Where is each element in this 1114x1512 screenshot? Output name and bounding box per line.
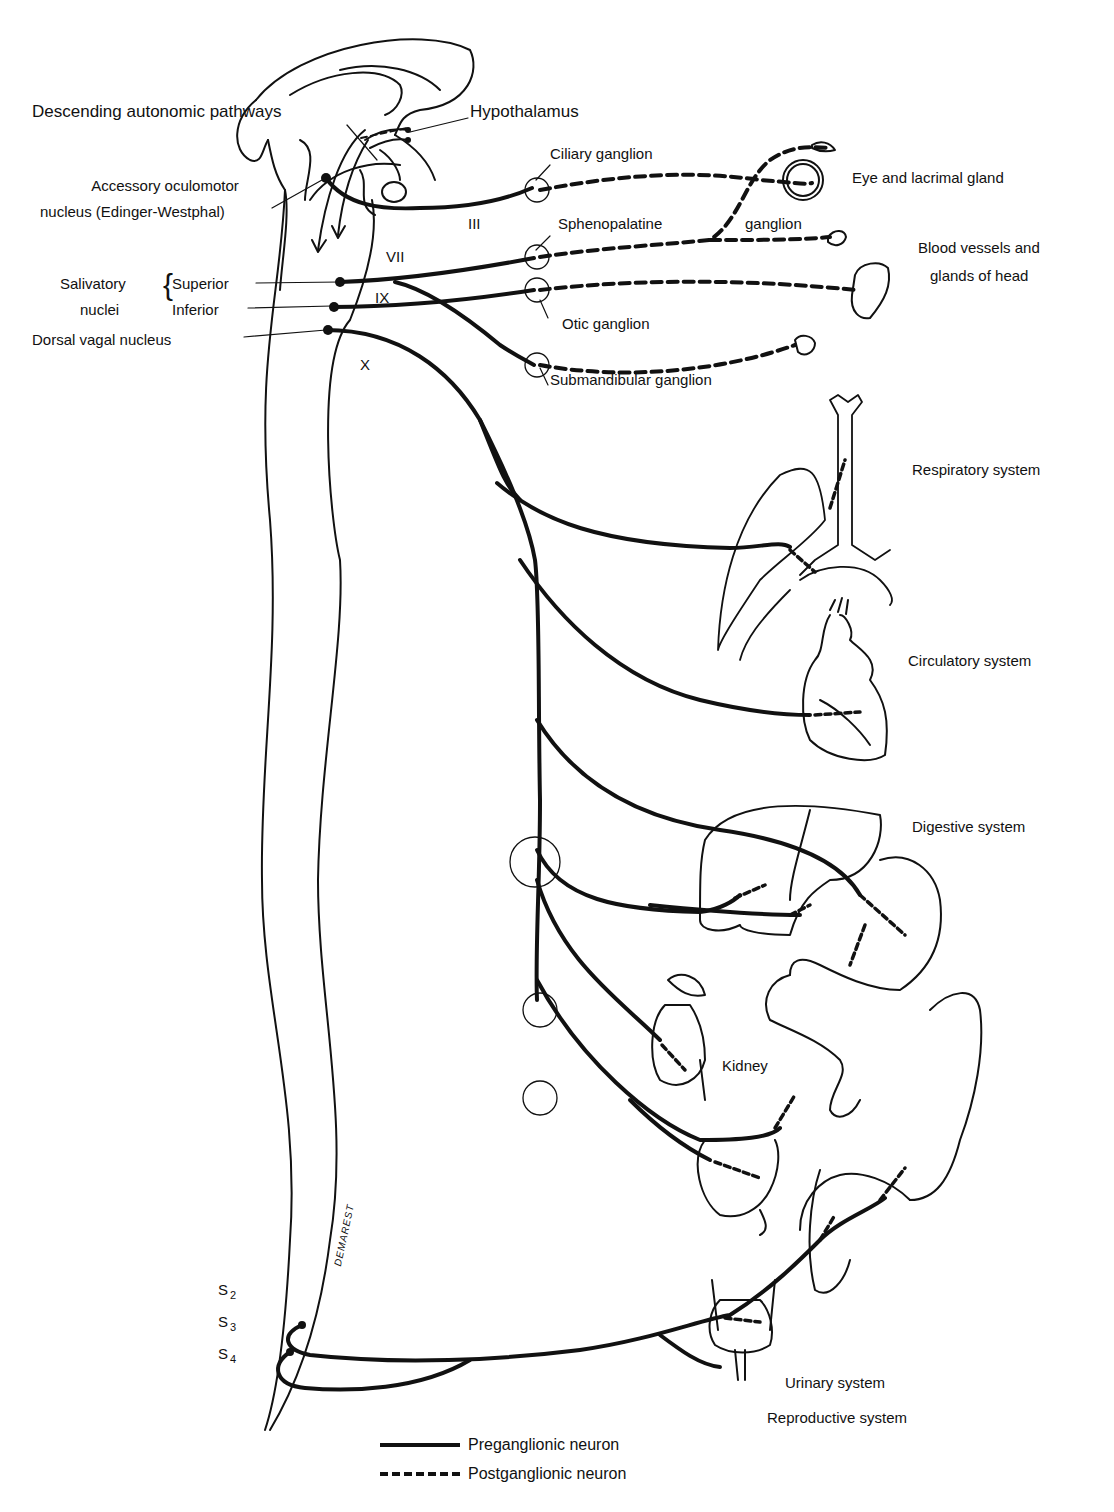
nerve-X-label: X <box>360 356 370 373</box>
sphenopalatine-ganglion-label: ganglion <box>745 216 802 231</box>
blood-vessels-label-1: Blood vessels and <box>918 240 1040 255</box>
s4-label: S4 <box>218 1346 236 1361</box>
diagram-canvas <box>0 0 1114 1512</box>
s3-label: S3 <box>218 1314 236 1329</box>
vagal-branches <box>480 420 860 1160</box>
legend-postganglionic-label: Postganglionic neuron <box>468 1465 626 1483</box>
urinary-postganglionic <box>725 1318 760 1322</box>
accessory-oculomotor-label-2: nucleus (Edinger-Westphal) <box>40 204 225 219</box>
dashed-line-swatch <box>380 1472 460 1476</box>
cranial-ganglia <box>525 178 549 377</box>
sacral-preganglionic <box>278 1198 885 1390</box>
circulatory-label: Circulatory system <box>908 653 1031 668</box>
descending-pathway-arrows <box>312 128 408 252</box>
descending-pathways-label: Descending autonomic pathways <box>32 103 281 120</box>
respiratory-label: Respiratory system <box>912 462 1040 477</box>
kidney-label: Kidney <box>722 1058 768 1073</box>
superior-nucleus-label: Superior <box>172 276 229 291</box>
otic-ganglion-label: Otic ganglion <box>562 316 650 331</box>
kidney-postganglionic <box>662 1045 685 1070</box>
inferior-nucleus-label: Inferior <box>172 302 219 317</box>
nerve-IX-label: IX <box>375 289 389 306</box>
digestive-organ <box>700 806 981 1230</box>
legend-preganglionic-label: Preganglionic neuron <box>468 1436 619 1454</box>
nerve-VII-label: VII <box>386 248 404 265</box>
reproductive-label: Reproductive system <box>767 1410 907 1425</box>
ciliary-ganglion-label: Ciliary ganglion <box>550 146 653 161</box>
circulatory-organ <box>803 598 887 760</box>
solid-line-swatch <box>380 1443 460 1447</box>
sphenopalatine-label: Sphenopalatine <box>558 216 662 231</box>
salivatory-label-1: Salivatory <box>60 276 126 291</box>
nerve-III-label: III <box>468 215 481 232</box>
legend-postganglionic: Postganglionic neuron <box>380 1465 626 1483</box>
respiratory-postganglionic <box>790 460 845 572</box>
nucleus-dots <box>286 127 411 1356</box>
dorsal-vagal-label: Dorsal vagal nucleus <box>32 332 171 347</box>
respiratory-organ <box>718 395 892 660</box>
eye-label: Eye and lacrimal gland <box>852 170 1004 185</box>
hypothalamus-label: Hypothalamus <box>470 103 579 120</box>
blood-vessels-label-2: glands of head <box>930 268 1028 283</box>
submandibular-ganglion-label: Submandibular ganglion <box>550 372 712 387</box>
spinal-cord <box>262 190 374 1430</box>
s2-label: S2 <box>218 1282 236 1297</box>
accessory-oculomotor-label-1: Accessory oculomotor <box>55 178 275 193</box>
preganglionic-cranial <box>326 178 534 500</box>
urinary-label: Urinary system <box>785 1375 885 1390</box>
postganglionic-cranial <box>540 147 855 372</box>
salivatory-label-2: nuclei <box>80 302 119 317</box>
circulatory-postganglionic <box>815 712 860 715</box>
legend-preganglionic: Preganglionic neuron <box>380 1436 619 1454</box>
digestive-label: Digestive system <box>912 819 1025 834</box>
